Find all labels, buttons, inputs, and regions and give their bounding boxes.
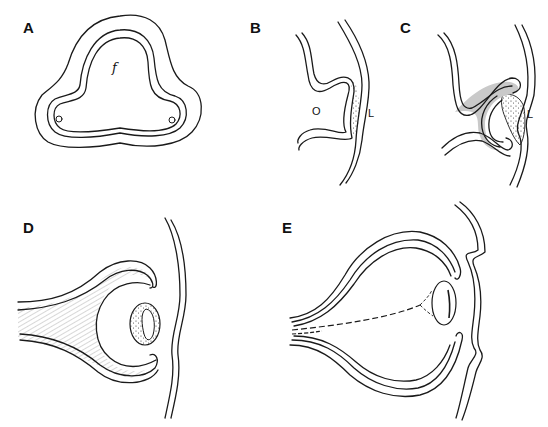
optic-pit-right bbox=[169, 117, 175, 123]
eyeball-lower-inner bbox=[294, 336, 450, 381]
surface-ectoderm-d-inner bbox=[171, 220, 186, 418]
panel-label-b: B bbox=[250, 19, 261, 36]
ciliary-fiber-lower bbox=[420, 305, 433, 316]
lens-vesicle bbox=[502, 94, 525, 145]
ciliary-fiber-upper bbox=[420, 290, 432, 305]
eyeball-lower-middle bbox=[292, 340, 455, 389]
panel-b: B O L bbox=[250, 19, 374, 185]
eyeball-upper-inner bbox=[294, 248, 451, 326]
cornea-outer bbox=[455, 205, 478, 418]
optic-nerve-dashed bbox=[292, 305, 420, 330]
panel-c: C L bbox=[400, 19, 535, 187]
optic-cup-inner-curve-2 bbox=[489, 100, 503, 142]
lens-label-b: L bbox=[368, 107, 374, 119]
lens-cavity bbox=[142, 309, 154, 340]
panel-e: E bbox=[282, 202, 485, 420]
panel-d: D bbox=[18, 218, 186, 418]
optic-nerve-dashed-2 bbox=[292, 331, 322, 334]
lens-label-c: L bbox=[527, 108, 533, 120]
panel-label-a: A bbox=[23, 19, 34, 36]
optic-pit-left bbox=[56, 116, 62, 122]
optic-cup-lower-inner bbox=[445, 140, 510, 156]
panel-a: A f bbox=[23, 15, 201, 147]
eyeball-lower-outer bbox=[290, 333, 462, 397]
panel-label-e: E bbox=[282, 219, 292, 236]
forebrain-label: f bbox=[111, 60, 119, 75]
panel-label-c: C bbox=[400, 19, 411, 36]
optic-vesicle-label: O bbox=[312, 105, 321, 117]
optic-cup-lower-outer bbox=[442, 132, 512, 150]
optic-vesicle-outer bbox=[296, 35, 349, 143]
eye-development-figure: A f B O L C bbox=[0, 0, 548, 427]
lens-e bbox=[432, 281, 456, 325]
neural-tube-middle-wall bbox=[48, 30, 187, 138]
panel-label-d: D bbox=[23, 219, 34, 236]
